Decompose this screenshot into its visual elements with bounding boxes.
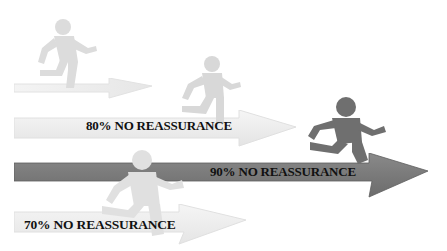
label-80-percent: 80% NO REASSURANCE [86, 118, 232, 134]
label-90-percent: 90% NO REASSURANCE [210, 164, 356, 180]
runner-figure-80 [172, 54, 244, 126]
runner-figure-top [32, 18, 102, 90]
runner-figure-90 [298, 96, 390, 168]
label-70-percent: 70% NO REASSURANCE [24, 217, 176, 233]
diagram-canvas: 80% NO REASSURANCE 90% NO REASSURANCE 70… [0, 0, 447, 251]
